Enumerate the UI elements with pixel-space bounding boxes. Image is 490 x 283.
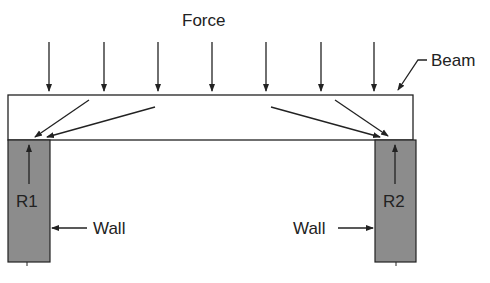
r2-label: R2	[383, 192, 405, 211]
force-arrows	[49, 42, 374, 91]
beam-pointer-icon	[398, 60, 427, 90]
wall-left-label: Wall	[93, 219, 125, 238]
wall-right-label: Wall	[293, 219, 325, 238]
r1-label: R1	[16, 192, 38, 211]
beam-label: Beam	[431, 51, 475, 70]
beam-diagram: Force Beam R1 R2 Wall Wall	[0, 0, 490, 283]
force-label: Force	[182, 11, 225, 30]
beam	[8, 95, 413, 140]
